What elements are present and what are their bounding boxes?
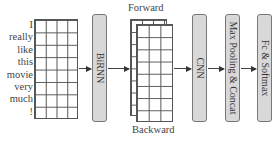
word-token: like — [0, 44, 33, 56]
fc-softmax-block: Fc & Softmax — [257, 14, 272, 122]
backward-matrix — [136, 24, 173, 122]
arrow — [241, 68, 256, 69]
word-token: really — [0, 31, 33, 43]
arrow — [79, 68, 91, 69]
arrow — [174, 68, 191, 69]
backward-label: Backward — [132, 124, 175, 135]
birnn-block: BiRNN — [92, 14, 107, 122]
word-token: much — [0, 93, 33, 105]
birnn-label: BiRNN — [94, 53, 105, 84]
input-words: I really like this movie very much ! — [0, 19, 33, 119]
word-token: very — [0, 81, 33, 93]
cnn-label: CNN — [194, 57, 205, 78]
word-token: ! — [0, 106, 33, 118]
word-token: this — [0, 56, 33, 68]
word-token: I — [0, 19, 33, 31]
forward-label: Forward — [128, 2, 164, 13]
word-token: movie — [0, 69, 33, 81]
arrow — [108, 68, 129, 69]
embedding-matrix — [34, 19, 78, 119]
arrow — [208, 68, 224, 69]
maxpool-label: Max Pooling & Concat — [227, 21, 238, 114]
fc-softmax-label: Fc & Softmax — [259, 40, 270, 97]
cnn-block: CNN — [192, 14, 207, 122]
maxpool-concat-block: Max Pooling & Concat — [225, 14, 240, 122]
